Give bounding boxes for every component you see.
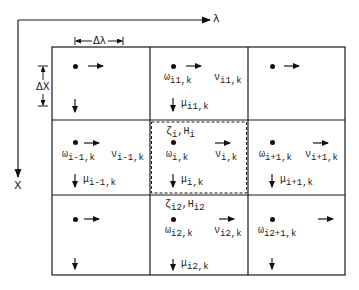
v-label: νi1,k	[214, 73, 242, 83]
lambda-label: λ	[213, 13, 220, 24]
grid-point	[171, 140, 176, 145]
v-arrows	[84, 66, 333, 219]
v-label: νi-1,k	[111, 150, 144, 160]
v-label: νi,k	[215, 150, 237, 160]
mu-label: μi1,k	[181, 99, 209, 109]
grid-lines	[52, 47, 345, 275]
zeta-h-label: ζi,Hi	[166, 127, 195, 137]
zeta-h-label: ζi2,Hi2	[165, 200, 205, 210]
grid-point	[270, 217, 275, 222]
mu-label: μi+1,k	[280, 175, 313, 185]
omega-label: ωi-1,k	[62, 150, 95, 160]
grid-point	[73, 140, 78, 145]
grid-point	[73, 64, 78, 69]
grid-point	[73, 217, 78, 222]
mu-label: μi,k	[181, 175, 203, 185]
delta-lambda-label: Δλ	[93, 35, 106, 46]
omega-label: ωi2,k	[165, 226, 193, 236]
delta-x-label: ΔX	[36, 81, 50, 92]
grid-point	[171, 217, 176, 222]
v-label: νi2,k	[214, 226, 242, 236]
omega-label: ωi2+1,k	[258, 226, 296, 236]
mu-label: μi2,k	[181, 259, 209, 269]
grid-point	[270, 140, 275, 145]
grid-point	[171, 64, 176, 69]
x-label: X	[14, 180, 22, 191]
diagram-canvas	[0, 0, 359, 290]
omega-label: ωi,k	[166, 150, 188, 160]
mu-label: μi-1,k	[83, 175, 116, 185]
v-label: νi+1,k	[305, 150, 338, 160]
omega-label: ωi+1,k	[259, 150, 292, 160]
omega-label: ωi1,k	[164, 73, 192, 83]
grid-point	[270, 64, 275, 69]
